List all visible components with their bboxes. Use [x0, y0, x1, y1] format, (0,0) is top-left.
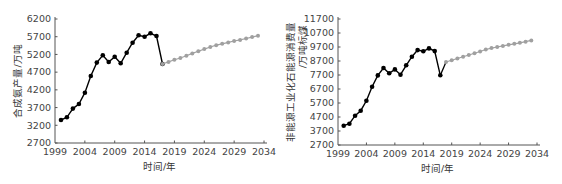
forecast-point — [467, 53, 471, 57]
y-tick-label: 3700 — [27, 102, 51, 113]
y-tick-label: 4200 — [27, 84, 51, 95]
historical-point — [404, 63, 409, 68]
chart-ammonia-production: 2700320037004200470052005700620019992004… — [0, 0, 280, 184]
y-axis-title: 合成氨产量/万吨 — [12, 44, 23, 117]
y-tick-label: 5700 — [27, 31, 51, 42]
x-tick-label: 2004 — [73, 146, 97, 157]
historical-line — [61, 33, 163, 120]
forecast-point — [202, 47, 206, 51]
historical-point — [89, 74, 94, 79]
historical-point — [130, 40, 135, 45]
y-axis-title: /万吨标煤 — [297, 25, 308, 68]
forecast-point — [478, 50, 482, 54]
y-tick-label: 8700 — [310, 55, 334, 66]
historical-point — [358, 108, 363, 113]
historical-point — [154, 34, 159, 39]
y-tick-label: 7700 — [310, 69, 334, 80]
forecast-line — [163, 36, 259, 64]
forecast-point — [226, 40, 230, 44]
forecast-point — [208, 45, 212, 49]
y-tick-label: 10700 — [304, 27, 334, 38]
x-tick-label: 2024 — [192, 146, 216, 157]
y-tick-label: 4700 — [27, 66, 51, 77]
forecast-point — [490, 46, 494, 50]
forecast-point — [172, 58, 176, 62]
forecast-point — [524, 40, 528, 44]
y-tick-label: 9700 — [310, 41, 334, 52]
historical-point — [415, 48, 420, 53]
historical-point — [101, 53, 106, 58]
forecast-point — [250, 35, 254, 39]
historical-point — [364, 99, 369, 104]
historical-point — [427, 46, 432, 51]
forecast-point — [512, 42, 516, 46]
forecast-point — [256, 34, 260, 38]
x-tick-label: 2019 — [162, 146, 186, 157]
historical-point — [353, 113, 358, 118]
y-tick-label: 3700 — [310, 125, 334, 136]
forecast-point — [178, 56, 182, 60]
historical-point — [83, 90, 88, 95]
historical-point — [65, 115, 70, 120]
x-axis-title: 时间/年 — [143, 161, 176, 172]
x-tick-label: 2014 — [132, 146, 156, 157]
chart-nonenergy-fossil-consumption: 2700370047005700670077008700970010700117… — [280, 0, 562, 184]
chart-canvas: 2700320037004200470052005700620019992004… — [0, 0, 280, 184]
forecast-point — [484, 48, 488, 52]
x-tick-label: 2009 — [103, 146, 127, 157]
y-tick-label: 6700 — [310, 83, 334, 94]
historical-point — [71, 106, 76, 111]
historical-point — [421, 49, 426, 54]
x-tick-label: 1999 — [43, 146, 67, 157]
historical-point — [341, 123, 346, 128]
y-tick-label: 11700 — [304, 13, 334, 24]
historical-point — [112, 54, 117, 59]
chart-canvas: 2700370047005700670077008700970010700117… — [280, 0, 562, 184]
historical-point — [438, 73, 443, 78]
y-tick-label: 5700 — [310, 97, 334, 108]
historical-point — [370, 85, 375, 90]
x-tick-label: 2034 — [252, 146, 276, 157]
forecast-point — [214, 43, 218, 47]
y-axis-title: 非能源工业化石能源消费量 — [285, 22, 296, 142]
historical-point — [376, 73, 381, 78]
historical-point — [381, 66, 386, 71]
historical-point — [136, 33, 141, 38]
x-tick-label: 2004 — [354, 148, 378, 159]
historical-point — [393, 67, 398, 72]
forecast-point — [501, 44, 505, 48]
x-tick-label: 2019 — [440, 148, 464, 159]
forecast-point — [161, 62, 165, 66]
forecast-point — [238, 38, 242, 42]
historical-point — [118, 61, 123, 66]
x-tick-label: 2029 — [496, 148, 520, 159]
forecast-point — [196, 49, 200, 53]
forecast-point — [450, 58, 454, 62]
historical-point — [59, 118, 64, 123]
historical-point — [106, 60, 111, 65]
historical-point — [410, 54, 415, 59]
x-tick-label: 1999 — [326, 148, 350, 159]
historical-point — [142, 34, 147, 39]
forecast-point — [495, 45, 499, 49]
forecast-point — [529, 38, 533, 42]
forecast-point — [473, 51, 477, 55]
historical-point — [347, 121, 352, 126]
forecast-point — [220, 42, 224, 46]
y-tick-label: 5200 — [27, 49, 51, 60]
forecast-point — [461, 55, 465, 59]
forecast-point — [518, 41, 522, 45]
forecast-point — [507, 43, 511, 47]
forecast-point — [190, 51, 194, 55]
historical-point — [398, 72, 403, 77]
y-tick-label: 4700 — [310, 111, 334, 122]
historical-point — [77, 102, 82, 107]
forecast-point — [244, 37, 248, 41]
x-tick-label: 2034 — [525, 148, 549, 159]
historical-point — [148, 31, 153, 36]
historical-point — [387, 71, 392, 76]
forecast-point — [232, 39, 236, 43]
forecast-point — [184, 54, 188, 58]
forecast-point — [455, 57, 459, 61]
x-tick-label: 2009 — [383, 148, 407, 159]
